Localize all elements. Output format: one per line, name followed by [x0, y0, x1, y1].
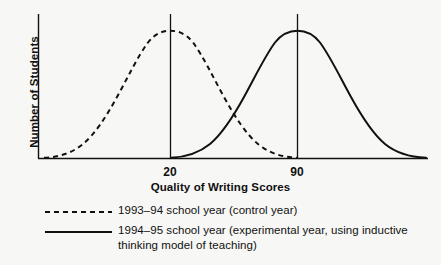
chart-figure: Number of Students 20 90 Quality of Writ… [0, 0, 441, 265]
curve-experimental-year [171, 31, 426, 158]
legend-entry-experimental-year: 1994–95 school year (experimental year, … [45, 223, 441, 252]
x-axis-title: Quality of Writing Scores [0, 181, 441, 193]
plot-svg [0, 0, 441, 200]
x-tick-label-20: 20 [150, 165, 190, 179]
dashed-line-sample [45, 203, 113, 219]
legend-entry-control-year: 1993–94 school year (control year) [45, 203, 441, 219]
legend-label-experimental-year: 1994–95 school year (experimental year, … [118, 223, 441, 252]
legend-label-control-year: 1993–94 school year (control year) [118, 203, 441, 218]
y-axis-title: Number of Students [28, 12, 40, 172]
solid-line-sample [45, 223, 113, 239]
legend: 1993–94 school year (control year) 1994–… [45, 203, 441, 252]
plot-area: Number of Students [0, 0, 441, 200]
x-tick-label-90: 90 [277, 165, 317, 179]
